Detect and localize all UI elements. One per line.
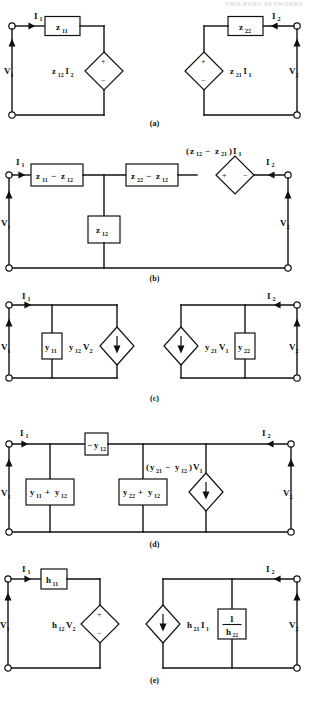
label-v1-sub-b: 1 — [8, 224, 11, 230]
label-src-y21-c: y — [205, 342, 210, 352]
label-b-src-i: I — [233, 146, 237, 156]
label-d-shunt1-a: y — [30, 487, 35, 497]
current-arrow-i2-c — [275, 302, 280, 307]
label-src-y12-sub-c: 12 — [75, 348, 81, 354]
voltage-arrow-v1-c — [6, 320, 11, 326]
label-b-src-op: − — [205, 146, 210, 156]
label-v1-sub-a: 1 — [11, 72, 14, 78]
running-head: TWO-PORT NETWORKS — [225, 1, 303, 7]
label-d-shunt2-a-sub: 22 — [129, 493, 135, 499]
label-i1-c: I — [22, 291, 26, 301]
panel-c-schematic: I 1 V 1 y 11 y 12 V 2 I 2 V — [0, 294, 309, 392]
label-i1-b: I — [16, 157, 20, 167]
label-y11-sub: 11 — [51, 348, 57, 354]
terminal-in-bottom-d — [6, 529, 12, 535]
label-src-z21-a: z — [230, 66, 234, 76]
figure-page: TWO-PORT NETWORKS I 1 z 11 V 1 z 12 — [0, 0, 309, 703]
voltage-arrow-v1-e — [5, 594, 10, 600]
voltage-arrow-v2-e — [294, 594, 299, 600]
label-b-src-a-sub: 12 — [196, 151, 202, 157]
label-src-i1-sub-a: 1 — [249, 72, 252, 78]
label-d-series: y — [94, 440, 99, 450]
label-d-src-a-sub: 21 — [156, 468, 162, 474]
current-arrow-i2-b — [269, 172, 274, 177]
label-src-h12-sub-e: 12 — [59, 626, 65, 632]
label-b-src-b: z — [215, 146, 219, 156]
label-src-i1-e: I — [201, 620, 205, 630]
label-d-src-op: − — [165, 462, 170, 472]
label-y22: y — [238, 342, 243, 352]
label-i1-sub-e: 1 — [28, 569, 31, 575]
label-d-shunt2-b-sub: 12 — [154, 493, 160, 499]
label-d-src-close: ) — [189, 462, 192, 472]
label-d-shunt2-op: + — [138, 487, 143, 497]
label-b-box3-sub: 12 — [102, 231, 108, 237]
label-i1-a: I — [34, 11, 38, 21]
minus-sign-e: − — [97, 629, 102, 638]
current-arrow-i1-b — [19, 172, 24, 177]
label-src-y21-sub-c: 21 — [211, 348, 217, 354]
current-arrow-i1-a — [29, 23, 34, 28]
label-h11-sub: 11 — [53, 581, 59, 587]
panel-e-schematic: I 1 V 1 h 11 h 12 V 2 + − — [0, 566, 309, 674]
panel-e: I 1 V 1 h 11 h 12 V 2 + − — [0, 566, 309, 674]
label-d-src-open: ( — [146, 462, 149, 472]
label-d-src-v-sub: 1 — [200, 468, 203, 474]
label-b-src-a: z — [190, 146, 194, 156]
label-b-box1-sub2: 12 — [67, 177, 73, 183]
label-frac-den-sub: 22 — [233, 632, 239, 638]
terminal-in-top-a — [9, 23, 15, 29]
label-d-shunt1-b: y — [55, 487, 60, 497]
panel-c: I 1 V 1 y 11 y 12 V 2 I 2 V — [0, 294, 309, 392]
label-b-box1-sub1: 11 — [42, 177, 48, 183]
label-b-src-close: ) — [229, 146, 232, 156]
label-i2-sub-e: 2 — [272, 569, 275, 575]
label-d-series-sub: 12 — [100, 446, 106, 452]
caption-e: (e) — [0, 676, 309, 685]
terminal-out-top-c — [294, 302, 300, 308]
label-src-i1-sub-e: 1 — [206, 626, 209, 632]
terminal-out-bottom-a — [294, 112, 300, 118]
terminal-in-top-c — [6, 302, 12, 308]
label-d-shunt2-b: y — [148, 487, 153, 497]
plus-sign-e: + — [97, 610, 102, 619]
voltage-arrow-v1-b — [6, 192, 11, 198]
label-i2-e: I — [266, 564, 270, 574]
terminal-in-top-e — [5, 576, 11, 582]
terminal-out-bottom-c — [294, 375, 300, 381]
label-i2-c: I — [267, 291, 271, 301]
label-src-i1-a: I — [244, 66, 248, 76]
terminal-out-top-a — [294, 23, 300, 29]
label-src-v2-sub-c: 2 — [90, 348, 93, 354]
label-src-v1-sub-c: 1 — [226, 348, 229, 354]
label-b-box2-z: z — [131, 171, 135, 181]
current-arrow-i2-e — [275, 576, 280, 581]
caption-c: (c) — [0, 394, 309, 403]
label-src-z12-a: z — [52, 66, 56, 76]
terminal-in-bottom-a — [9, 112, 15, 118]
panel-d-schematic: I 1 I 2 V 1 V 2 − y 12 y 11 + y 12 y 22 … — [0, 428, 309, 538]
label-z11-sub: 11 — [62, 28, 68, 34]
label-b-box2-sub1: 22 — [137, 177, 143, 183]
label-src-h12-e: h — [52, 620, 57, 630]
panel-d: I 1 I 2 V 1 V 2 − y 12 y 11 + y 12 y 22 … — [0, 428, 309, 538]
label-src-v2-sub-e: 2 — [73, 626, 76, 632]
label-z22-sub: 22 — [245, 28, 251, 34]
current-arrow-i1-c — [25, 302, 30, 307]
label-h11: h — [46, 575, 51, 585]
terminal-out-bottom-d — [288, 529, 294, 535]
voltage-arrow-v2-c — [294, 320, 299, 326]
plus-sign-a-right: + — [201, 57, 206, 66]
panel-b-schematic: I 1 I 2 V 1 V 2 z 11 − z 12 z 22 − z 12 … — [0, 148, 309, 272]
label-src-z21-sub-a: 21 — [236, 72, 242, 78]
label-d-src-a: y — [150, 462, 155, 472]
label-d-shunt1-a-sub: 11 — [36, 493, 42, 499]
panel-a-schematic: I 1 z 11 V 1 z 12 I 2 + − I 2 — [0, 10, 309, 118]
label-i1-sub-a: 1 — [40, 16, 43, 22]
minus-sign-a-right: − — [201, 76, 206, 85]
terminal-out-bottom-b — [285, 265, 291, 271]
current-arrow-i2-d — [268, 441, 273, 446]
label-d-src-b: y — [175, 462, 180, 472]
label-i1-e: I — [22, 564, 26, 574]
plus-sign-b: + — [222, 171, 227, 180]
